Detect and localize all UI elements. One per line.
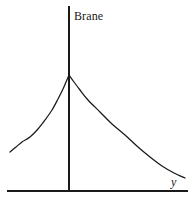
y-axis-label: y [171, 176, 176, 188]
figure-background [0, 0, 195, 205]
figure-canvas [0, 0, 195, 205]
brane-label: Brane [74, 10, 103, 22]
brane-warp-factor-figure: Brane y [0, 0, 195, 205]
